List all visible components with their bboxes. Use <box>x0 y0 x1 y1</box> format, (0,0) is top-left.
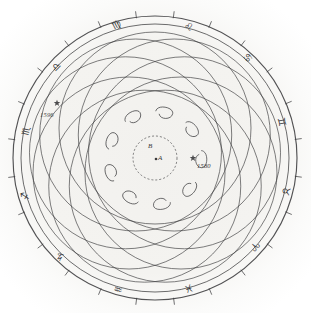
epicycle-circles <box>29 32 280 282</box>
figure-plate: ♍♌♋♊♉♈♓♒♑♐♏♎ 15961580 B A <box>0 0 311 313</box>
astronomical-diagram <box>0 0 311 313</box>
center-circle-label: B <box>148 143 152 150</box>
annotation-epoch-end: 1580 <box>197 163 211 170</box>
center-point-a <box>155 158 158 161</box>
epoch-markers <box>54 100 196 161</box>
zodiac-tick-marks <box>8 11 302 305</box>
center-circle-b <box>133 136 177 180</box>
center-point-label: A <box>158 155 162 162</box>
annotation-epoch-start: 1596 <box>40 112 54 119</box>
